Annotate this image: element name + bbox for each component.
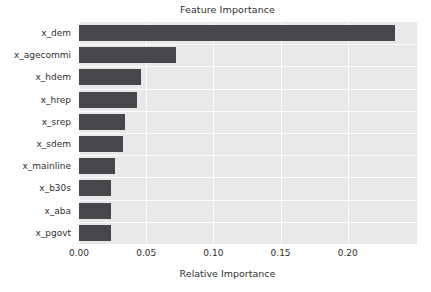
y-tick-label-x_agecommi: x_agecommi (14, 44, 71, 66)
gridline-horizontal-1 (79, 44, 417, 45)
gridline-horizontal-4 (79, 111, 417, 112)
bar-x_mainline (79, 158, 115, 174)
y-tick-label-x_hdem: x_hdem (35, 66, 71, 88)
gridline-horizontal-3 (79, 89, 417, 90)
x-tick-label-1: 0.05 (136, 248, 156, 258)
y-axis-tick-labels: x_demx_agecommix_hdemx_hrepx_srepx_sdemx… (0, 22, 75, 244)
y-tick-label-x_srep: x_srep (42, 111, 71, 133)
chart-figure: Feature Importance x_demx_agecommix_hdem… (0, 0, 431, 292)
x-tick-label-3: 0.15 (271, 248, 291, 258)
gridline-horizontal-9 (79, 222, 417, 223)
gridline-horizontal-6 (79, 155, 417, 156)
y-tick-label-x_dem: x_dem (41, 22, 71, 44)
bar-x_hrep (79, 92, 137, 108)
gridline-horizontal-8 (79, 200, 417, 201)
y-tick-label-x_aba: x_aba (44, 200, 71, 222)
x-tick-label-4: 0.20 (338, 248, 358, 258)
y-tick-label-x_hrep: x_hrep (41, 89, 71, 111)
x-tick-label-2: 0.10 (203, 248, 223, 258)
bar-x_agecommi (79, 47, 176, 63)
chart-title-text: Feature Importance (180, 4, 275, 15)
chart-title: Feature Importance (0, 4, 431, 15)
bar-x_b30s (79, 180, 111, 196)
bar-x_hdem (79, 69, 141, 85)
bar-x_sdem (79, 136, 123, 152)
y-tick-label-x_mainline: x_mainline (22, 155, 71, 177)
bar-x_srep (79, 114, 125, 130)
x-axis-title-text: Relative Importance (180, 268, 276, 279)
gridline-horizontal-7 (79, 177, 417, 178)
plot-area (79, 22, 417, 244)
y-tick-label-x_sdem: x_sdem (36, 133, 71, 155)
bar-x_dem (79, 25, 395, 41)
bar-x_aba (79, 203, 111, 219)
x-axis-tick-labels: 0.000.050.100.150.20 (0, 248, 431, 264)
bar-x_pgovt (79, 225, 111, 241)
y-tick-label-x_pgovt: x_pgovt (35, 222, 71, 244)
gridline-horizontal-2 (79, 66, 417, 67)
x-axis-title: Relative Importance (0, 268, 431, 279)
x-tick-label-0: 0.00 (69, 248, 89, 258)
y-tick-label-x_b30s: x_b30s (39, 177, 71, 199)
gridline-horizontal-5 (79, 133, 417, 134)
